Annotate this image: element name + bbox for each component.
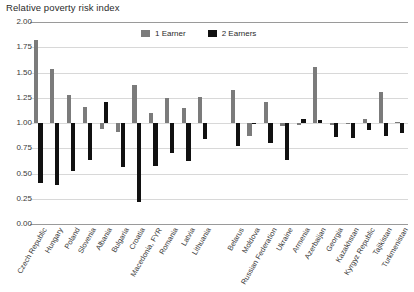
bar-group [309, 22, 325, 224]
legend-label: 1 Earner [155, 29, 186, 38]
bar-earner1 [182, 108, 186, 123]
bar-earner1 [346, 123, 350, 124]
bar-earner1 [280, 123, 284, 126]
bar-earner2 [88, 123, 92, 160]
chart-title: Relative poverty risk index [6, 2, 120, 13]
y-tick-label: 1.00 [6, 118, 32, 127]
bar-earner1 [264, 102, 268, 123]
bar-group [96, 22, 112, 224]
y-tick-label: 1.50 [6, 68, 32, 77]
bar-earner2 [285, 123, 289, 160]
bar-earner2 [55, 123, 59, 185]
bar-earner2 [384, 123, 388, 136]
bar-earner1 [198, 97, 202, 123]
bar-group [244, 22, 260, 224]
y-tick-label: 0.50 [6, 169, 32, 178]
bar-earner1 [395, 122, 399, 123]
bar-earner2 [170, 123, 174, 153]
bar-group [227, 22, 243, 224]
bar-earner1 [50, 69, 54, 123]
bar-earner1 [100, 123, 104, 129]
bar-group [79, 22, 95, 224]
x-axis-category-labels: Czech RepublicHungaryPolandSloveniaAlban… [30, 226, 408, 292]
bar-earner2 [268, 123, 272, 143]
bar-earner1 [363, 119, 367, 123]
bar-earner2 [334, 123, 338, 137]
y-tick-label: 2.00 [6, 17, 32, 26]
legend-swatch-gray [141, 30, 150, 37]
bar-earner2 [203, 123, 207, 139]
relative-poverty-risk-chart: Relative poverty risk index 0.000.250.50… [0, 0, 414, 292]
bar-earner1 [34, 40, 38, 123]
bar-group [194, 22, 210, 224]
bar-earner2 [318, 120, 322, 123]
legend-label: 2 Earners [222, 29, 257, 38]
bar-earner1 [132, 85, 136, 123]
bars-layer [30, 22, 408, 224]
legend-item: 2 Earners [208, 29, 257, 38]
bar-earner2 [351, 123, 355, 138]
bar-earner1 [379, 92, 383, 123]
plot-area [30, 22, 408, 224]
chart-legend: 1 Earner2 Earners [141, 29, 256, 38]
bar-group [260, 22, 276, 224]
bar-group [112, 22, 128, 224]
bar-earner2 [104, 102, 108, 123]
bar-group [30, 22, 46, 224]
bar-earner1 [165, 98, 169, 123]
legend-swatch-black [208, 30, 217, 37]
bar-earner1 [116, 123, 120, 132]
bar-group [326, 22, 342, 224]
bar-earner1 [149, 113, 153, 123]
bar-group [342, 22, 358, 224]
y-tick-label: 0.75 [6, 143, 32, 152]
bar-earner2 [137, 123, 141, 202]
bar-earner2 [71, 123, 75, 171]
y-tick-label: 1.75 [6, 42, 32, 51]
bar-earner2 [236, 123, 240, 146]
bar-earner1 [83, 107, 87, 123]
legend-item: 1 Earner [141, 29, 186, 38]
bar-earner2 [186, 123, 190, 161]
bar-earner1 [67, 95, 71, 123]
bar-earner2 [301, 119, 305, 123]
gridline-0 [30, 224, 408, 225]
y-tick-label: 1.25 [6, 93, 32, 102]
bar-earner2 [367, 123, 371, 130]
bar-earner2 [153, 123, 157, 166]
bar-group [145, 22, 161, 224]
bar-group [129, 22, 145, 224]
bar-earner1 [330, 123, 334, 125]
bar-earner1 [247, 123, 251, 136]
bar-earner2 [38, 123, 42, 183]
bar-earner2 [400, 123, 404, 133]
bar-earner1 [313, 67, 317, 123]
y-tick-label: 0.25 [6, 194, 32, 203]
bar-earner2 [121, 123, 125, 167]
bar-earner1 [297, 123, 301, 125]
bar-earner1 [231, 90, 235, 123]
bar-earner2 [252, 123, 256, 124]
y-tick-label: 0.00 [6, 219, 32, 228]
